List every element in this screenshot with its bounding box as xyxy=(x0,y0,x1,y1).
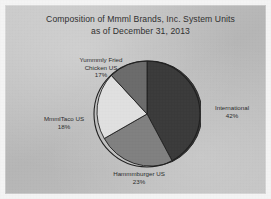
pie-label-mmmltaco-us: MmmlTaco US 18% xyxy=(33,115,95,130)
pie-label-yummmly-fried-chicken-us: Yummmly Fried Chicken US 17% xyxy=(65,56,137,79)
pie-label-international-percent: 42% xyxy=(201,112,263,120)
pie-label-mmmltaco-us-text: MmmlTaco US xyxy=(44,115,84,122)
pie-label-hammmburger-us: Hammmburger US 23% xyxy=(99,170,179,185)
pie-chart: Composition of Mmml Brands, Inc. System … xyxy=(5,5,266,194)
chart-title-line-1: Composition of Mmml Brands, Inc. System … xyxy=(46,14,235,24)
pie-label-hammmburger-us-text: Hammmburger US xyxy=(113,170,165,177)
chart-title-line-2: as of December 31, 2013 xyxy=(17,26,264,38)
pie-label-hammmburger-us-percent: 23% xyxy=(99,178,179,186)
slide-canvas: Composition of Mmml Brands, Inc. System … xyxy=(0,0,271,199)
pie-label-mmmltaco-us-percent: 18% xyxy=(33,123,95,131)
pie-label-yummmly-line-1: Yummmly Fried xyxy=(80,56,123,63)
pie-label-yummmly-line-2: Chicken US xyxy=(65,64,137,72)
chart-title: Composition of Mmml Brands, Inc. System … xyxy=(17,14,264,37)
pie-label-international-text: International xyxy=(215,104,249,111)
pie-label-international: International 42% xyxy=(201,104,263,119)
pie-label-yummmly-percent: 17% xyxy=(65,71,137,79)
